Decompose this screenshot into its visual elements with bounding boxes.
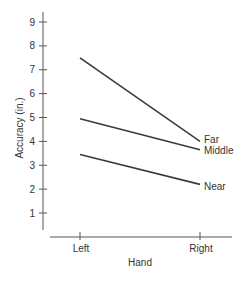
- x-axis: LeftRight: [50, 232, 232, 254]
- y-tick-label: 6: [29, 88, 35, 99]
- x-tick-label: Right: [189, 243, 213, 254]
- y-tick-label: 5: [29, 112, 35, 123]
- y-axis: 123456789: [29, 12, 47, 230]
- series-label-middle: Middle: [204, 145, 234, 156]
- y-axis-title: Accuracy (in.): [14, 97, 25, 158]
- x-tick-label: Left: [73, 243, 90, 254]
- series-lines: FarMiddleNear: [80, 58, 234, 193]
- y-tick-label: 9: [29, 17, 35, 28]
- series-line-far: [80, 58, 200, 142]
- x-axis-title: Hand: [128, 257, 152, 268]
- y-tick-label: 3: [29, 160, 35, 171]
- y-tick-label: 7: [29, 64, 35, 75]
- y-tick-label: 1: [29, 208, 35, 219]
- series-line-near: [80, 155, 200, 185]
- y-tick-label: 4: [29, 136, 35, 147]
- y-tick-label: 2: [29, 184, 35, 195]
- series-label-near: Near: [204, 181, 226, 192]
- series-label-far: Far: [204, 134, 220, 145]
- line-chart: 123456789 LeftRight FarMiddleNear Accura…: [0, 0, 252, 284]
- series-line-middle: [80, 119, 200, 150]
- y-tick-label: 8: [29, 40, 35, 51]
